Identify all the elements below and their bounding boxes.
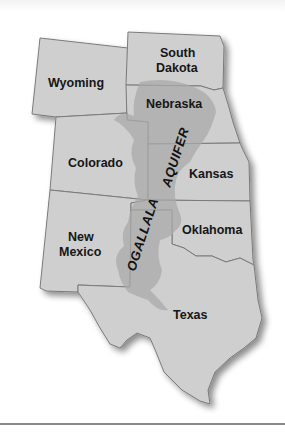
label-south-dakota-line1: South [160,46,195,60]
label-new-mexico-line2: Mexico [59,245,102,259]
label-wyoming: Wyoming [48,76,104,90]
label-oklahoma: Oklahoma [182,223,243,237]
label-new-mexico-line1: New [68,230,94,244]
ogallala-aquifer-map: Wyoming South Dakota Nebraska Colorado K… [0,0,285,432]
label-colorado: Colorado [68,156,123,170]
bottom-divider-rule [0,423,285,425]
label-kansas: Kansas [189,167,234,181]
label-south-dakota-line2: Dakota [156,61,199,75]
label-texas: Texas [173,308,208,322]
label-nebraska: Nebraska [146,97,203,111]
